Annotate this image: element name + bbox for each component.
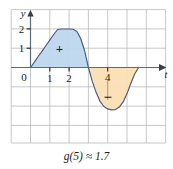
negative-area-fill [88, 68, 138, 110]
positive-sign-label: + [56, 41, 63, 56]
y-axis [27, 10, 33, 68]
origin-tick-label: 0 [21, 71, 27, 83]
y-axis-arrow-icon [27, 10, 33, 17]
grid-lines [11, 10, 165, 143]
y-tick-label-2: 2 [19, 23, 25, 35]
figure-container: y t 0 1 2 4 1 2 + − g(5) ≈ 1.7 [0, 0, 173, 169]
x-tick-label-1: 1 [47, 72, 53, 84]
negative-sign-label: − [103, 89, 112, 105]
x-axis-label: t [165, 69, 169, 80]
y-axis-label: y [20, 8, 26, 19]
figure-caption: g(5) ≈ 1.7 [64, 150, 111, 163]
x-tick-label-2: 2 [66, 72, 72, 84]
graph-canvas: y t 0 1 2 4 1 2 + − g(5) ≈ 1.7 [0, 0, 173, 169]
y-tick-label-1: 1 [19, 42, 25, 54]
x-tick-label-4: 4 [105, 71, 111, 83]
